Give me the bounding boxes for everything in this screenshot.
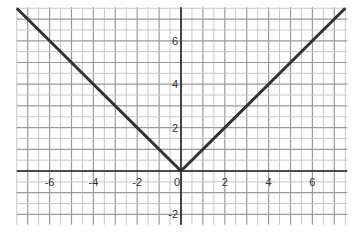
y-tick-label: 6	[172, 35, 178, 47]
y-tick-label: 4	[172, 78, 178, 90]
y-tick-label: 2	[172, 122, 178, 134]
grid-lines	[17, 7, 348, 224]
coordinate-plane: -6-4-20246-2246	[0, 0, 355, 235]
x-tick-label: -4	[89, 176, 99, 188]
x-tick-label: 4	[266, 176, 272, 188]
x-tick-label: 0	[174, 176, 180, 188]
y-tick-label: -2	[168, 208, 178, 220]
x-tick-label: 2	[222, 176, 228, 188]
x-tick-label: 6	[309, 176, 315, 188]
x-tick-label: -2	[132, 176, 142, 188]
x-tick-label: -6	[45, 176, 55, 188]
